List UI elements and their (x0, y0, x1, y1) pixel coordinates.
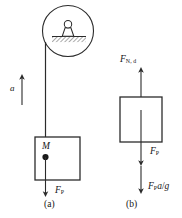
mass-text: M (42, 141, 50, 151)
force-a-subscript: P (61, 189, 64, 195)
support-knob (64, 21, 71, 28)
force-mid-subscript: P (156, 150, 159, 156)
force-bottom-denominator: g (165, 181, 170, 191)
caption-b-text: (b) (126, 199, 137, 209)
force-normal-subscript: N, d (126, 58, 137, 64)
ceiling-hatching (52, 37, 86, 42)
label-force-mid-b: FP (150, 147, 159, 157)
label-force-bottom-b: FPa/g (148, 182, 169, 192)
acceleration-text: a (10, 83, 15, 93)
label-acceleration: a (10, 84, 15, 93)
label-force-a: FP (55, 186, 64, 196)
label-force-normal-b: FN, d (120, 55, 136, 65)
support-trapezoid (62, 28, 74, 37)
figure-canvas: a M FP (a) FN, d FP FPa/g (b) (0, 0, 182, 218)
caption-a: (a) (44, 200, 55, 210)
label-mass-M: M (42, 142, 50, 152)
caption-a-text: (a) (44, 199, 55, 209)
caption-b: (b) (126, 200, 137, 210)
